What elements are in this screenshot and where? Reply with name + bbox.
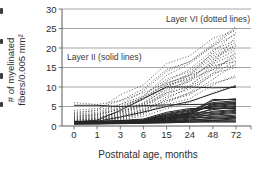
x-tick-label: 0 — [71, 129, 76, 140]
y-tick-label: 0 — [51, 121, 56, 132]
chart-canvas: 051015202530013615244872 # of myelinated… — [0, 0, 270, 171]
y-axis-title-line1: # of myelinated — [5, 38, 16, 102]
x-tick-label: 6 — [141, 129, 146, 140]
y-axis-title-line2: fibers/0.005 mm² — [16, 34, 27, 105]
legend-layer-ii: Layer II (solid lines) — [67, 52, 142, 62]
y-tick-label: 30 — [46, 4, 57, 15]
y-tick-label: 20 — [46, 43, 57, 54]
x-tick-label: 72 — [231, 129, 242, 140]
x-tick-label: 48 — [208, 129, 219, 140]
y-tick-label: 5 — [51, 101, 56, 112]
x-tick-label: 15 — [161, 129, 172, 140]
y-tick-label: 10 — [46, 82, 57, 93]
y-tick-label: 15 — [46, 62, 57, 73]
x-tick-label: 24 — [184, 129, 195, 140]
figure: 051015202530013615244872 # of myelinated… — [0, 0, 270, 171]
x-tick-label: 3 — [118, 129, 123, 140]
legend-layer-vi: Layer VI (dotted lines) — [166, 14, 250, 24]
y-tick-label: 25 — [46, 23, 57, 34]
series-solid-group — [74, 86, 236, 124]
x-axis-title: Postnatal age, months — [98, 149, 198, 160]
x-tick-label: 1 — [94, 129, 99, 140]
